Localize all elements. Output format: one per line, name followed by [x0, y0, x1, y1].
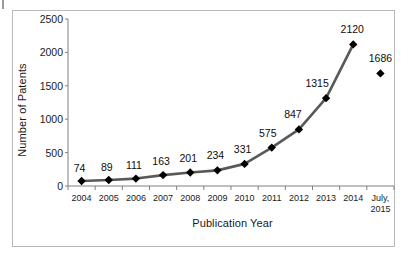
- data-point-marker: [349, 40, 357, 48]
- x-tick-label: July,2015: [360, 193, 400, 215]
- data-point-marker: [105, 176, 113, 184]
- y-tick-label: 1000: [27, 113, 63, 125]
- data-point-marker: [186, 168, 194, 176]
- plot-canvas: [0, 0, 409, 256]
- x-tick-label-line2: 2015: [360, 204, 400, 215]
- y-tick-label: 2000: [27, 46, 63, 58]
- patent-trend-chart: Number of Patents Publication Year 05001…: [0, 0, 409, 256]
- data-point-label: 331: [221, 143, 265, 155]
- data-point-marker: [132, 174, 140, 182]
- data-point-marker: [77, 177, 85, 185]
- data-point-marker: [159, 171, 167, 179]
- data-point-marker: [376, 69, 384, 77]
- y-tick-label: 500: [27, 147, 63, 159]
- x-tick-label-line1: July,: [360, 193, 400, 204]
- y-tick-label: 2500: [27, 13, 63, 25]
- y-tick-label: 0: [27, 180, 63, 192]
- data-point-label: 1315: [295, 77, 339, 89]
- y-tick-label: 1500: [27, 80, 63, 92]
- data-point-marker: [213, 166, 221, 174]
- data-point-label: 2120: [330, 23, 374, 35]
- data-point-label: 847: [271, 108, 315, 120]
- data-point-label: 575: [246, 127, 290, 139]
- data-point-label: 1686: [358, 52, 402, 64]
